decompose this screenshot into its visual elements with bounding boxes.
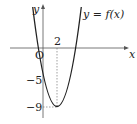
y-tick-minus-5: −5 bbox=[26, 74, 42, 87]
function-graph: y x O 2 −5 −9 y = f(x) bbox=[0, 0, 137, 124]
y-tick-minus-9: −9 bbox=[26, 101, 42, 114]
y-axis-label: y bbox=[32, 3, 40, 16]
y-axis-arrow-icon bbox=[41, 4, 45, 9]
x-tick-2: 2 bbox=[54, 35, 61, 48]
x-axis-label: x bbox=[129, 48, 136, 61]
origin-label: O bbox=[35, 49, 44, 62]
function-label: y = f(x) bbox=[82, 8, 124, 21]
